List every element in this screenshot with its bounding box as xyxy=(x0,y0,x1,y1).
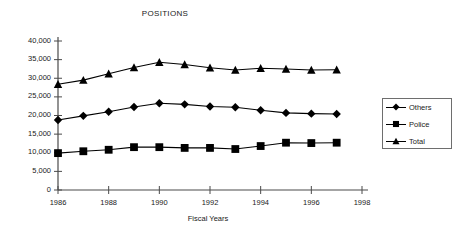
series-line-others xyxy=(58,103,337,120)
data-point-marker xyxy=(206,144,214,152)
data-point-marker xyxy=(130,103,138,111)
data-point-marker xyxy=(54,149,62,157)
square-marker-icon xyxy=(383,116,409,133)
data-point-marker xyxy=(307,109,315,117)
data-point-marker xyxy=(282,109,290,117)
legend-item-total: Total xyxy=(383,133,453,150)
x-axis-tick-label: 1986 xyxy=(41,199,75,207)
y-axis-tick-label: 35,000 xyxy=(17,55,51,63)
x-axis-tick-label: 1996 xyxy=(294,199,328,207)
data-point-marker xyxy=(256,106,264,114)
y-axis-tick-label: 40,000 xyxy=(17,37,51,45)
data-point-marker xyxy=(155,99,163,107)
triangle-marker-icon xyxy=(383,133,409,150)
data-point-marker xyxy=(206,102,214,110)
y-axis-tick-label: 5,000 xyxy=(17,167,51,175)
legend-label-police: Police xyxy=(409,120,429,129)
legend-item-others: Others xyxy=(383,99,453,116)
data-point-marker xyxy=(180,100,188,108)
legend-label-others: Others xyxy=(409,103,432,112)
data-point-marker xyxy=(257,142,265,150)
y-axis-tick-label: 0 xyxy=(17,186,51,194)
chart-figure: POSITIONS Fiscal Years 05,00010,00015,00… xyxy=(0,0,461,237)
y-axis-tick-label: 20,000 xyxy=(17,111,51,119)
data-point-marker xyxy=(104,108,112,116)
series-line-police xyxy=(58,143,337,153)
data-point-marker xyxy=(130,143,138,151)
y-axis-tick-label: 30,000 xyxy=(17,74,51,82)
data-point-marker xyxy=(105,146,113,154)
x-axis-label: Fiscal Years xyxy=(50,214,366,223)
legend-label-total: Total xyxy=(409,137,425,146)
diamond-marker-icon xyxy=(383,99,409,116)
data-point-marker xyxy=(181,144,189,152)
data-point-marker xyxy=(333,139,341,147)
data-point-marker xyxy=(54,116,62,124)
data-point-marker xyxy=(155,143,163,151)
data-point-marker xyxy=(231,103,239,111)
x-axis-tick-label: 1994 xyxy=(244,199,278,207)
y-axis-tick-label: 15,000 xyxy=(17,130,51,138)
data-point-marker xyxy=(79,147,87,155)
x-axis-tick-label: 1992 xyxy=(193,199,227,207)
series-line-total xyxy=(58,62,337,84)
chart-legend: Others Police Total xyxy=(382,98,452,149)
data-point-marker xyxy=(79,112,87,120)
y-axis-tick-label: 10,000 xyxy=(17,148,51,156)
x-axis-tick-label: 1988 xyxy=(92,199,126,207)
legend-item-police: Police xyxy=(383,116,453,133)
x-axis-tick-label: 1990 xyxy=(142,199,176,207)
data-point-marker xyxy=(282,139,290,147)
data-point-marker xyxy=(332,110,340,118)
x-axis-tick-label: 1998 xyxy=(345,199,379,207)
data-point-marker xyxy=(307,139,315,147)
y-axis-tick-label: 25,000 xyxy=(17,92,51,100)
data-point-marker xyxy=(231,145,239,153)
